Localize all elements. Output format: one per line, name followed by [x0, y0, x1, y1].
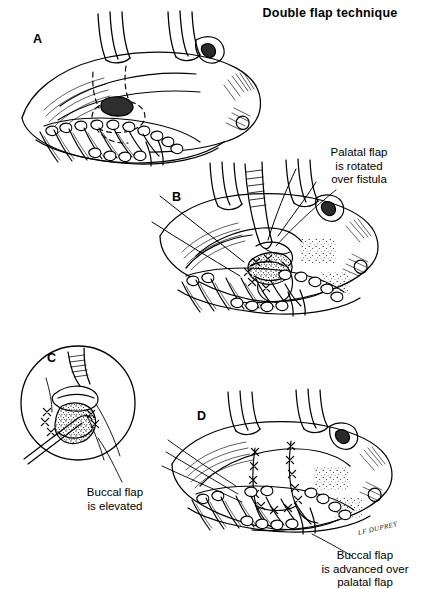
panel-label-d: D: [197, 409, 206, 423]
buccal-flap-advanced-line-1: Buccal flap: [305, 549, 425, 563]
buccal-flap-advanced-line-3: palatal flap: [305, 576, 425, 589]
page-title: Double flap technique: [250, 6, 410, 20]
buccal-flap-elevated-line-1: Buccal flap: [62, 486, 168, 500]
buccal-flap-advanced-callout: Buccal flap is advanced over palatal fla…: [305, 549, 425, 589]
palatal-flap-callout: Palatal flap is rotated over fistula: [303, 146, 415, 187]
palatal-flap-callout-line-2: is rotated: [303, 160, 415, 174]
buccal-flap-elevated-callout: Buccal flap is elevated: [62, 486, 168, 513]
figure-double-flap-technique: Double flap technique A B C D Palatal fl…: [0, 0, 427, 589]
panel-label-a: A: [33, 32, 42, 46]
buccal-flap-elevated-line-2: is elevated: [62, 500, 168, 514]
buccal-flap-advanced-line-2: is advanced over: [305, 563, 425, 577]
panel-c-artwork: [21, 346, 135, 464]
panel-label-c: C: [47, 351, 56, 365]
panel-label-b: B: [172, 190, 181, 204]
palatal-flap-callout-line-1: Palatal flap: [303, 146, 415, 160]
panel-a-artwork: [22, 11, 261, 166]
palatal-flap-callout-line-3: over fistula: [303, 173, 415, 187]
